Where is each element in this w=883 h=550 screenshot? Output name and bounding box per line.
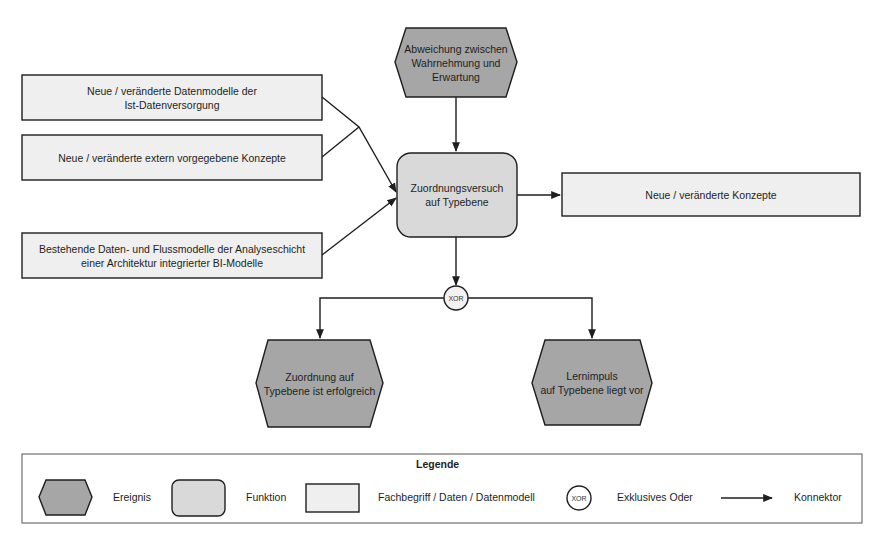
edge-data2-to-junction (322, 127, 359, 157)
function-main-label: Zuordnungsversuch auf Typebene (397, 153, 517, 237)
legend-title: Legende (416, 458, 459, 470)
event-left-label: Zuordnung auf Typebene ist erfolgreich (256, 340, 383, 427)
edge-data1-to-function (322, 97, 396, 192)
legend-label-connector: Konnektor (794, 491, 842, 503)
data-1-label: Neue / veränderte Datenmodelle der Ist-D… (22, 75, 322, 120)
legend-label-event: Ereignis (113, 491, 151, 503)
event-top-label: Abweichung zwischen Wahrnehmung und Erwa… (395, 28, 517, 97)
legend-function-symbol (172, 480, 225, 516)
data-out-label: Neue / veränderte Konzepte (562, 173, 860, 216)
event-right-label: Lernimpuls auf Typebene liegt vor (532, 340, 652, 425)
legend-data-symbol (306, 484, 359, 512)
svg-text:XOR: XOR (571, 495, 586, 502)
data-2-label: Neue / veränderte extern vorgegebene Kon… (22, 135, 322, 180)
data-3-label: Bestehende Daten- und Flussmodelle der A… (22, 233, 322, 278)
edge-xor-to-event-left (320, 298, 444, 338)
svg-text:XOR: XOR (448, 295, 463, 302)
xor-connector[interactable]: XOR (444, 286, 468, 310)
edge-xor-to-event-right (468, 298, 592, 338)
legend-label-function: Funktion (246, 491, 286, 503)
legend-event-symbol (39, 480, 92, 515)
legend-label-xor: Exklusives Oder (617, 491, 693, 503)
legend-label-data: Fachbegriff / Daten / Datenmodell (378, 491, 535, 503)
edge-data3-to-function (322, 198, 396, 255)
